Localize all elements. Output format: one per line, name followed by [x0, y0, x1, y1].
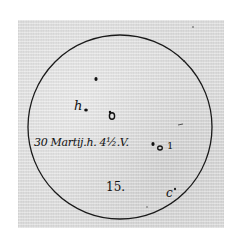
- sunspot-right-mark: [178, 124, 183, 125]
- label-15: 15.: [106, 180, 125, 194]
- solar-disc-drawing: [0, 0, 229, 243]
- sunspot-center-group: [109, 113, 114, 119]
- speck: [192, 26, 194, 28]
- sunspot-center-group-2: [109, 111, 111, 113]
- sunspot-edge: [183, 60, 185, 62]
- sunspot-c-dot: [174, 188, 176, 190]
- label-h: h: [74, 98, 82, 113]
- speck: [146, 206, 147, 207]
- label-date: 30 Martij.h. 4½.V.: [34, 136, 129, 149]
- sunspot-right-2: [158, 146, 163, 150]
- sunspot-top: [94, 77, 97, 81]
- label-c: c: [166, 186, 173, 200]
- sunspot-h-dot: [84, 108, 88, 111]
- label-1: 1: [167, 140, 173, 151]
- sunspot-right-1: [151, 142, 154, 146]
